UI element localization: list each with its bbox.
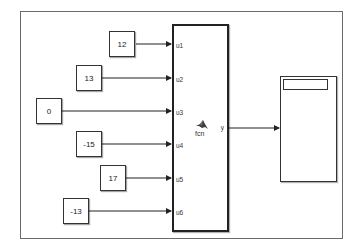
display-icon <box>283 79 328 90</box>
constant-block-1[interactable]: 12 <box>109 31 135 57</box>
constant-value: 13 <box>85 74 94 83</box>
constant-value: 12 <box>118 40 127 49</box>
input-port-label-u5: u5 <box>176 176 183 183</box>
matlab-function-block[interactable]: u1 u2 u3 u4 u5 u6 fcn y <box>172 24 229 232</box>
constant-block-6[interactable]: -13 <box>63 198 89 224</box>
constant-value: -13 <box>70 207 82 216</box>
input-port-label-u1: u1 <box>176 42 183 49</box>
constant-value: 17 <box>109 174 118 183</box>
constant-block-5[interactable]: 17 <box>100 165 126 191</box>
input-port-label-u6: u6 <box>176 209 183 216</box>
constant-block-2[interactable]: 13 <box>76 65 102 91</box>
input-port-label-u4: u4 <box>176 142 183 149</box>
display-block[interactable] <box>280 76 337 182</box>
output-port-label-y: y <box>221 124 224 131</box>
matlab-logo-icon <box>196 120 208 130</box>
input-port-label-u2: u2 <box>176 76 183 83</box>
function-name-label: fcn <box>195 130 204 137</box>
constant-value: 0 <box>47 107 51 116</box>
constant-block-3[interactable]: 0 <box>36 98 62 124</box>
constant-value: -15 <box>83 140 95 149</box>
input-port-label-u3: u3 <box>176 109 183 116</box>
constant-block-4[interactable]: -15 <box>76 131 102 157</box>
